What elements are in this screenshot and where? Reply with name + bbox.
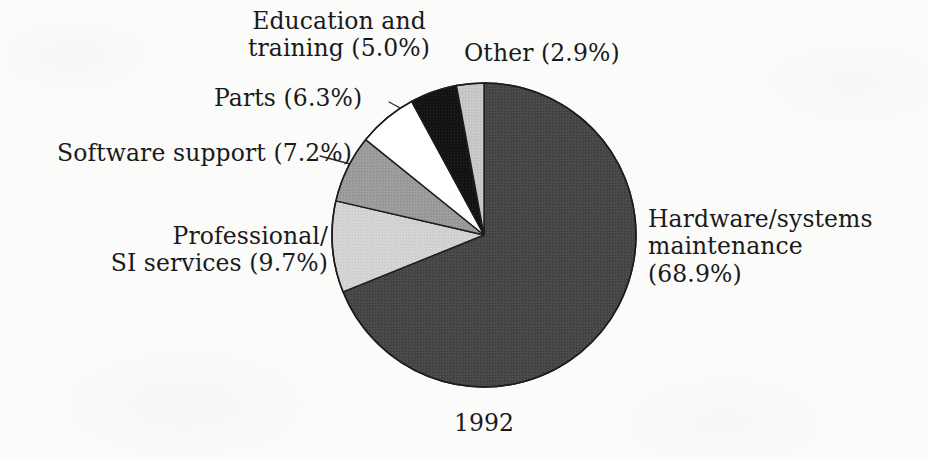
pie-label-professional-line-2: SI services (9.7%) bbox=[104, 250, 328, 277]
pie-label-other-line-1: Other (2.9%) bbox=[464, 40, 620, 67]
pie-slices-group bbox=[332, 83, 636, 387]
pie-label-professional-line-1: Professional/ bbox=[104, 223, 328, 250]
pie-label-education-line-2: training (5.0%) bbox=[241, 35, 437, 62]
pie-label-education-and-training: Education and training (5.0%) bbox=[241, 8, 437, 63]
pie-chart-figure: Education and training (5.0%) Other (2.9… bbox=[0, 0, 928, 459]
pie-label-parts: Parts (6.3%) bbox=[214, 85, 362, 112]
pie-label-other: Other (2.9%) bbox=[464, 40, 620, 67]
pie-label-professional-si-services: Professional/ SI services (9.7%) bbox=[104, 223, 328, 278]
pie-label-hardware-systems-maintenance: Hardware/systems maintenance (68.9%) bbox=[648, 206, 898, 288]
pie-label-education-line-1: Education and bbox=[241, 8, 437, 35]
pie-label-hardware-line-1: Hardware/systems bbox=[648, 206, 898, 233]
pie-label-parts-line-1: Parts (6.3%) bbox=[214, 85, 362, 112]
pie-label-software-support-line-1: Software support (7.2%) bbox=[57, 140, 352, 167]
pie-label-software-support: Software support (7.2%) bbox=[57, 140, 352, 167]
pie-label-hardware-line-2: maintenance (68.9%) bbox=[648, 233, 898, 288]
chart-caption-year: 1992 bbox=[414, 409, 554, 437]
